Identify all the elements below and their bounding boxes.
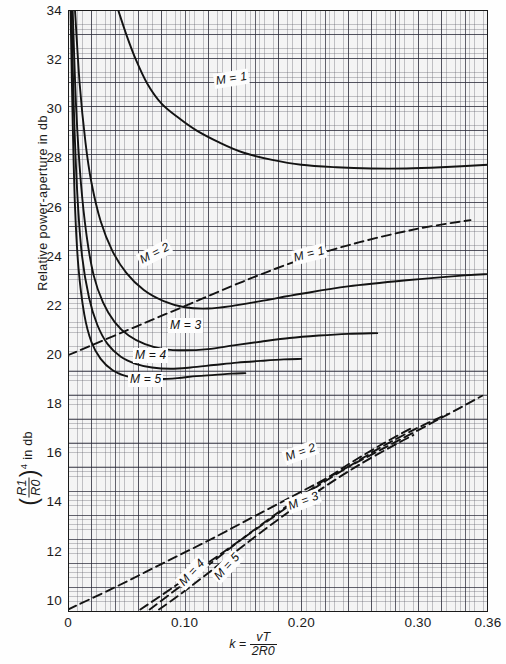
y-lower-tail: in db [21,431,35,460]
y-tick-label: 30 [4,101,62,116]
y-axis-title-lower: (R1R0)4 in db [16,374,43,564]
x-tick-label: 0 [64,615,72,630]
x-tick-label: 0.36 [474,615,501,630]
y-tick-label: 20 [4,347,62,362]
ratio-fraction: R1R0 [16,477,43,498]
y-tick-label: 10 [4,592,62,607]
curve-m-2-dashed [68,396,482,610]
y-tick-label: 34 [4,3,62,18]
chart-figure: M = 1M = 2M = 3M = 4M = 5M = 1M = 2M = 3… [0,0,506,664]
paren-open: ( [16,498,42,506]
x-equals: = [239,637,246,651]
exponent: 4 [18,464,29,470]
curve-layer [68,10,488,612]
y-axis-ticks: 10121416182022242628303234 [0,0,62,664]
x-tick-label: 0.30 [404,615,431,630]
curve-label-solid-m3: M = 3 [168,318,203,333]
curve-m-1 [118,10,488,169]
curve-label-solid-m4: M = 4 [133,348,168,363]
x-fraction-numerator: vT [250,631,277,645]
y-tick-label: 24 [4,248,62,263]
y-tick-label: 28 [4,150,62,165]
y-axis-title-upper: Relative power-aperture in db [36,88,50,318]
x-axis-title: k = vT2R0 [0,631,506,658]
curve-m-3 [73,10,378,350]
curve-label-solid-m5: M = 5 [128,372,163,387]
y-tick-label: 32 [4,52,62,67]
paren-close: ) [16,469,42,477]
fraction-denominator: R0 [30,477,43,498]
x-tick-label: 0.10 [171,615,198,630]
y-tick-label: 22 [4,297,62,312]
curve-m-2 [75,10,488,309]
fraction-numerator: R1 [16,477,30,498]
y-tick-label: 26 [4,199,62,214]
x-symbol-k: k [229,637,235,651]
x-tick-label: 0.20 [288,615,315,630]
x-fraction-denominator: 2R0 [250,645,277,658]
x-fraction: vT2R0 [250,631,277,658]
curve-m-4 [72,10,302,369]
plot-area [68,10,488,612]
